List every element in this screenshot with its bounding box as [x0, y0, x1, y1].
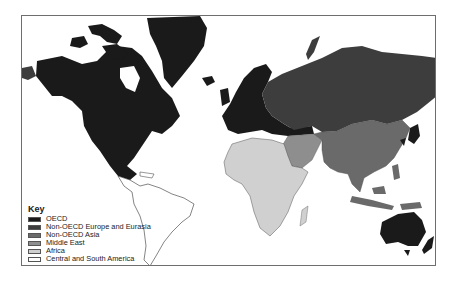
legend-title: Key	[28, 204, 151, 214]
swatch-non-oecd-asia	[28, 233, 41, 238]
region-north-america-oecd	[36, 46, 180, 180]
map-legend: Key OECD Non-OECD Europe and Eurasia Non…	[28, 204, 151, 263]
swatch-central-south-america	[28, 257, 41, 262]
region-greenland-oecd	[147, 16, 207, 88]
swatch-africa	[28, 249, 41, 254]
legend-item-central-south-america: Central and South America	[28, 255, 151, 263]
swatch-middle-east	[28, 241, 41, 246]
swatch-oecd	[28, 217, 41, 222]
region-non-oecd-europe-eurasia	[262, 46, 436, 132]
swatch-non-oecd-europe-eurasia	[28, 225, 41, 230]
region-australia-oecd	[380, 212, 426, 246]
world-map: Key OECD Non-OECD Europe and Eurasia Non…	[21, 15, 436, 266]
